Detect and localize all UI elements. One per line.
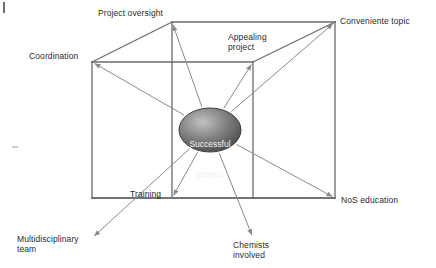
arrow-to-appealing-project bbox=[224, 65, 252, 109]
arrow-to-nos-education bbox=[236, 144, 332, 196]
node-label-appealing-project: Appealingproject bbox=[228, 32, 267, 52]
node-label-line: involved bbox=[233, 250, 269, 260]
node-label-line: team bbox=[17, 244, 79, 254]
cube-edge bbox=[92, 22, 172, 62]
node-label-line: Training bbox=[130, 189, 161, 199]
node-label-project-oversight: Project oversight bbox=[98, 8, 163, 18]
node-label-line: project bbox=[228, 42, 267, 52]
center-label-line-1: Successful bbox=[170, 139, 250, 149]
node-label-line: Chemists bbox=[233, 240, 269, 250]
node-label-conveniente-topic: Conveniente topic bbox=[340, 16, 410, 26]
node-label-line: Coordination bbox=[29, 51, 78, 61]
node-label-line: Project oversight bbox=[98, 8, 163, 18]
node-label-training: Training bbox=[130, 189, 161, 199]
node-label-coordination: Coordination bbox=[29, 51, 78, 61]
node-label-line: Appealing bbox=[228, 32, 267, 42]
node-label-line: Multidisciplinary bbox=[17, 234, 79, 244]
node-label-chemists-involved: Chemistsinvolved bbox=[233, 240, 269, 260]
cube-diagram-figure: Successful project Project oversightConv… bbox=[0, 0, 436, 268]
center-label-line-2: project bbox=[170, 169, 250, 179]
arrow-to-coordination bbox=[95, 64, 185, 116]
arrow-to-project-oversight bbox=[173, 25, 202, 107]
node-label-line: NoS education bbox=[341, 195, 398, 205]
successful-project-label: Successful project bbox=[170, 119, 250, 199]
node-label-multidisciplinary-team: Multidisciplinaryteam bbox=[17, 234, 79, 254]
node-label-line: Conveniente topic bbox=[340, 16, 410, 26]
node-label-nos-education: NoS education bbox=[341, 195, 398, 205]
